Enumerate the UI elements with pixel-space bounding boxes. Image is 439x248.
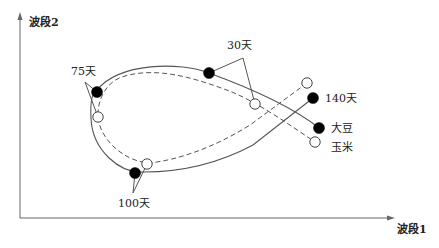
label-140-days: 140天 bbox=[325, 93, 357, 104]
corn-point-30-days bbox=[250, 99, 260, 109]
callout-30-days bbox=[209, 58, 255, 104]
x-axis-label: 波段1 bbox=[397, 224, 427, 235]
soybean-point-100-days bbox=[130, 168, 141, 179]
corn-point-75-days bbox=[93, 112, 103, 122]
legend-corn: 玉米 bbox=[331, 142, 353, 153]
x-axis-arrow-icon bbox=[387, 216, 395, 221]
label-75-days: 75天 bbox=[71, 66, 96, 77]
soybean-point-30-days bbox=[204, 68, 215, 79]
y-axis-label: 波段2 bbox=[29, 17, 59, 28]
corn-trajectory bbox=[98, 73, 315, 163]
label-100-days: 100天 bbox=[118, 198, 150, 209]
legend-soybean: 大豆 bbox=[331, 123, 353, 134]
soybean-point-75-days bbox=[92, 87, 103, 98]
soybean-point-end bbox=[314, 123, 325, 134]
corn-point-end bbox=[310, 137, 320, 147]
spectral-trajectory-diagram: 波段2 波段1 30天 75天 100天 140天 大豆 玉米 bbox=[0, 0, 439, 248]
corn-point-100-days bbox=[142, 159, 152, 169]
label-30-days: 30天 bbox=[227, 40, 252, 51]
axes bbox=[18, 12, 396, 221]
corn-point-140-days bbox=[302, 78, 312, 88]
corn-markers bbox=[93, 78, 320, 169]
soybean-markers bbox=[92, 68, 325, 179]
diagram-canvas bbox=[0, 0, 439, 248]
y-axis-arrow-icon bbox=[18, 12, 23, 20]
soybean-point-140-days bbox=[308, 93, 319, 104]
